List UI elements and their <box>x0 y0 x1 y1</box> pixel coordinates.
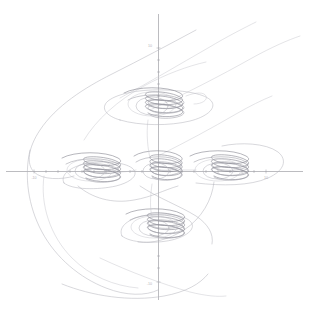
z-axis-label-negative: -10 <box>147 282 152 286</box>
parametric-plot-svg: -10 10 10 -10 <box>0 0 317 314</box>
coil-left-strand-a <box>62 153 121 182</box>
link-top-to-center <box>147 120 150 158</box>
coil-right-strand-b <box>194 157 248 181</box>
plot-canvas: -10 10 10 -10 <box>0 0 317 314</box>
coil-center-strand-a <box>134 151 182 180</box>
arc-faint-lower-left <box>43 176 138 288</box>
coil-cluster-center <box>134 151 182 181</box>
arc-diagonal-top-1 <box>120 22 256 98</box>
arc-faint-upper <box>84 62 206 140</box>
x-axis-label-negative: -10 <box>31 176 36 180</box>
arc-diagonal-bottom <box>100 258 226 296</box>
coil-cluster-right <box>190 151 249 181</box>
link-center-to-bottom <box>151 184 153 216</box>
arc-diagonal-mid <box>160 96 272 155</box>
arc-bottom-sweep <box>62 274 208 298</box>
coil-center-ring <box>143 163 169 179</box>
coil-cluster-bottom <box>126 209 185 239</box>
coil-right-strand-a <box>190 151 249 180</box>
z-axis-label-positive: 10 <box>148 44 152 48</box>
arc-left-oval <box>63 162 135 189</box>
coil-cluster-left <box>62 153 121 183</box>
linking-strands-group <box>118 120 196 216</box>
arc-diagonal-top-2 <box>150 36 300 110</box>
sweeping-arcs-group <box>27 22 300 298</box>
arc-top-hook <box>186 93 206 104</box>
